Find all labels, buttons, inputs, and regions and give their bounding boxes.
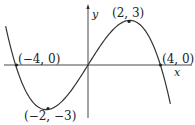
- y-axis-label: y: [91, 8, 99, 21]
- function-graph: (−4, 0) (−2, −3) (2, 3) (4, 0) y x: [0, 0, 195, 125]
- y-axis-arrow-icon: [86, 4, 89, 9]
- label-neg2-neg3: (−2, −3): [24, 109, 76, 123]
- x-axis-label: x: [174, 66, 181, 79]
- label-neg4-0: (−4, 0): [18, 52, 60, 66]
- point-2-3: [127, 20, 130, 23]
- graph-canvas: (−4, 0) (−2, −3) (2, 3) (4, 0) y x: [0, 0, 195, 125]
- label-2-3: (2, 3): [112, 6, 144, 20]
- label-4-0: (4, 0): [162, 52, 194, 66]
